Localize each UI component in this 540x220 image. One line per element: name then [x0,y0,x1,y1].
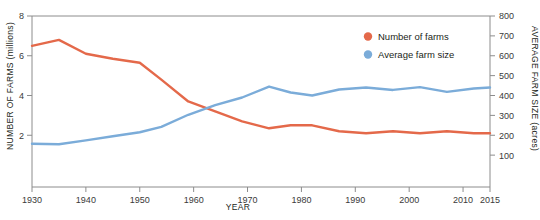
x-tick-label-2010: 2010 [453,195,473,205]
legend-label-0: Number of farms [378,31,449,42]
y2-tick-label-400: 400 [499,91,514,101]
legend-swatch-0 [364,32,372,40]
x-axis-title: YEAR [226,202,251,212]
y2-tick-label-800: 800 [499,11,514,21]
left-axis-title: NUMBER OF FARMS (millions) [5,22,15,150]
x-tick-label-1960: 1960 [184,195,204,205]
x-tick-label-1980: 1980 [291,195,311,205]
right-axis-title: AVERAGE FARM SIZE (acres) [530,26,540,151]
y2-tick-label-300: 300 [499,111,514,121]
legend-label-1: Average farm size [378,49,454,60]
x-tick-label-1940: 1940 [76,195,96,205]
farm-trends-chart: 1930194019501960197019801990200020102015… [0,0,540,220]
chart-canvas: 1930194019501960197019801990200020102015… [0,0,540,220]
y-tick-label-8: 8 [19,11,24,21]
y-tick-label-4: 4 [19,91,24,101]
x-tick-label-2000: 2000 [399,195,419,205]
legend-swatch-1 [364,50,372,58]
y2-tick-label-700: 700 [499,31,514,41]
x-tick-label-2015: 2015 [480,195,500,205]
y2-tick-label-200: 200 [499,131,514,141]
y2-tick-label-100: 100 [499,151,514,161]
y2-tick-label-500: 500 [499,71,514,81]
x-tick-label-1930: 1930 [22,195,42,205]
y-tick-label-6: 6 [19,51,24,61]
x-tick-label-1950: 1950 [130,195,150,205]
x-tick-label-1990: 1990 [345,195,365,205]
y-tick-label-2: 2 [19,131,24,141]
y2-tick-label-600: 600 [499,51,514,61]
